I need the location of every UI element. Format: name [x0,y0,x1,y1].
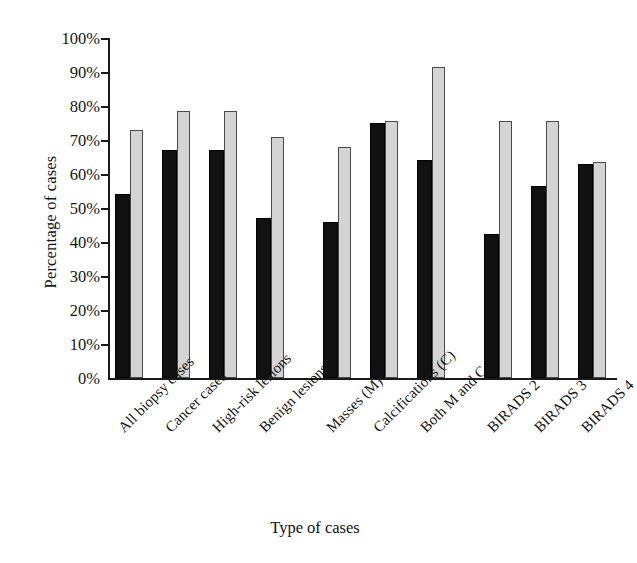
bar-dark-benign-lesions [256,218,271,378]
y-tick-label-10: 10% [42,337,100,354]
bar-dark-birads-4 [578,164,593,378]
bar-dark-high-risk-lesions [209,150,224,378]
bar-light-cancer-cases [177,111,190,378]
bar-light-both-m-and-c [432,67,445,378]
y-tick-60 [101,174,109,176]
y-tick-label-100: 100% [42,31,100,48]
y-tick-label-70: 70% [42,133,100,150]
bar-dark-both-m-and-c [417,160,432,378]
y-tick-90 [101,72,109,74]
y-tick-label-30: 30% [42,269,100,286]
y-tick-label-20: 20% [42,303,100,320]
bar-light-calcifications [385,121,398,378]
bar-light-benign-lesions [271,137,284,378]
bar-dark-birads-2 [484,234,499,379]
plot-area: 100% 90% 80% 70% 60% 50% 40% 30% 20% 10%… [110,38,615,378]
y-tick-30 [101,276,109,278]
bar-light-birads-4 [593,162,606,378]
bar-light-high-risk-lesions [224,111,237,378]
y-tick-70 [101,140,109,142]
y-tick-40 [101,242,109,244]
y-axis-title: Percentage of cases [41,122,61,322]
bar-dark-all-biopsy-cases [115,194,130,378]
y-tick-80 [101,106,109,108]
bar-dark-masses [323,222,338,378]
y-tick-50 [101,208,109,210]
x-axis-title: Type of cases [0,518,630,538]
bar-light-birads-2 [499,121,512,378]
bar-dark-calcifications [370,123,385,378]
bar-dark-birads-3 [531,186,546,378]
y-tick-label-80: 80% [42,99,100,116]
y-tick-label-0: 0% [42,371,100,388]
y-tick-label-90: 90% [42,65,100,82]
bar-light-masses [338,147,351,378]
y-tick-label-60: 60% [42,167,100,184]
y-tick-label-50: 50% [42,201,100,218]
bar-dark-cancer-cases [162,150,177,378]
y-tick-label-40: 40% [42,235,100,252]
y-tick-10 [101,344,109,346]
bar-light-birads-3 [546,121,559,378]
y-tick-100 [101,38,109,40]
y-tick-20 [101,310,109,312]
bar-light-all-biopsy-cases [130,130,143,378]
